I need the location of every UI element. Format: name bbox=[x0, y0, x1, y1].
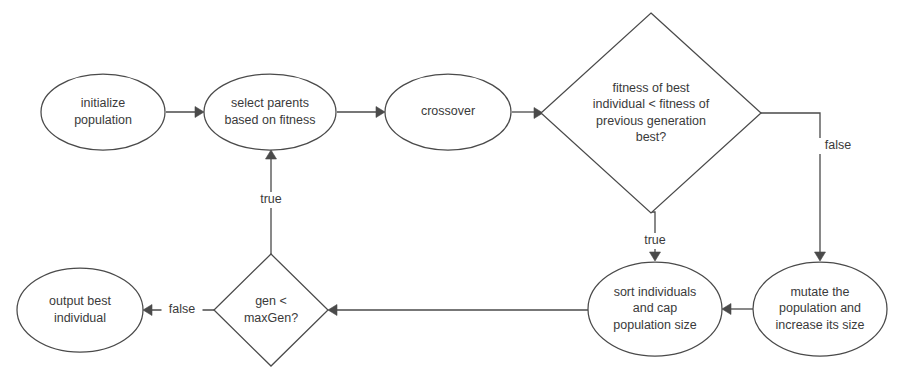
edge-gen-false-to-output-label: false bbox=[162, 302, 203, 318]
edge-sort-to-gen-check bbox=[328, 305, 588, 316]
edge-mutate-to-sort bbox=[722, 304, 753, 315]
flowchart-svg: initializepopulationselect parentsbased … bbox=[0, 0, 908, 380]
crossover-node[interactable]: crossover bbox=[385, 74, 511, 150]
edge-fitness-true-to-sort-label: true bbox=[638, 233, 672, 249]
edge-label-text: false bbox=[825, 138, 851, 152]
node-label-line: output best bbox=[49, 294, 111, 308]
edge-fitness-false-to-mutate-label: false bbox=[818, 138, 859, 154]
node-label-line: increase its size bbox=[776, 318, 865, 332]
arrowhead-icon bbox=[815, 252, 826, 261]
node-label-line: fitness of best bbox=[612, 81, 690, 95]
node-label-line: based on fitness bbox=[224, 113, 315, 127]
edge-label-text: true bbox=[260, 192, 282, 206]
node-label-line: population bbox=[74, 113, 132, 127]
generation-limit-decision[interactable]: gen <maxGen? bbox=[214, 254, 328, 366]
node-label-line: population and bbox=[779, 301, 861, 315]
node-label-line: initialize bbox=[81, 96, 126, 110]
node-label-line: crossover bbox=[421, 104, 475, 118]
arrowhead-icon bbox=[328, 305, 337, 316]
initialize-population-node[interactable]: initializepopulation bbox=[41, 74, 165, 150]
flowchart-canvas: initializepopulationselect parentsbased … bbox=[0, 0, 908, 380]
edge-fitness-false-to-mutate bbox=[761, 113, 826, 261]
edge-label-text: false bbox=[169, 302, 195, 316]
edge-crossover-to-fitness bbox=[512, 108, 543, 119]
arrowhead-icon bbox=[376, 107, 385, 118]
node-label-line: population size bbox=[613, 318, 696, 332]
arrowhead-icon bbox=[143, 305, 152, 316]
node-label-line: maxGen? bbox=[244, 311, 298, 325]
node-label-line: previous generation bbox=[596, 114, 706, 128]
node-label-line: mutate the bbox=[790, 285, 849, 299]
node-label-line: individual bbox=[54, 311, 106, 325]
edge-initialize-to-select bbox=[166, 107, 204, 118]
node-label-line: best? bbox=[636, 130, 667, 144]
sort-and-cap-node[interactable]: sort individualsand cappopulation size bbox=[588, 262, 722, 356]
mutate-population-node[interactable]: mutate thepopulation andincrease its siz… bbox=[753, 262, 887, 356]
node-label-line: sort individuals bbox=[614, 285, 697, 299]
arrowhead-icon bbox=[195, 107, 204, 118]
edge-label-text: true bbox=[644, 233, 666, 247]
node-label-line: gen < bbox=[255, 294, 287, 308]
fitness-comparison-decision[interactable]: fitness of bestindividual < fitness ofpr… bbox=[541, 13, 761, 213]
node-label-line: individual < fitness of bbox=[593, 97, 710, 111]
edge-line bbox=[761, 113, 820, 257]
node-label-line: and cap bbox=[633, 301, 678, 315]
edge-gen-true-to-select-label: true bbox=[254, 192, 288, 208]
node-label-line: select parents bbox=[231, 96, 309, 110]
edge-select-to-crossover bbox=[337, 107, 385, 118]
arrowhead-icon bbox=[722, 304, 731, 315]
select-parents-node[interactable]: select parentsbased on fitness bbox=[204, 74, 336, 150]
arrowhead-icon bbox=[266, 150, 277, 159]
arrowhead-icon bbox=[650, 252, 661, 261]
output-best-individual-node[interactable]: output bestindividual bbox=[17, 268, 143, 352]
